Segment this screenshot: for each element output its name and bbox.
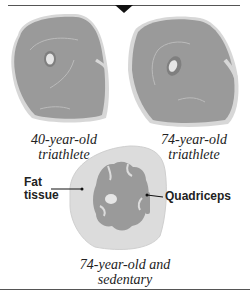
cross-section-74-triathlete [128, 17, 239, 127]
caption-74-triathlete: 74-year-old triathlete [148, 132, 240, 162]
caption-line: triathlete [148, 147, 240, 162]
cross-section-40-triathlete [11, 14, 109, 123]
caption-line: 74-year-old [148, 132, 240, 147]
caption-line: 40-year-old [18, 132, 110, 147]
caption-74-sedentary: 74-year-old and sedentary [60, 257, 190, 287]
label-line: tissue [24, 189, 59, 202]
caption-line: triathlete [18, 147, 110, 162]
bottom-divider [0, 289, 250, 290]
caption-line: sedentary [60, 272, 190, 287]
caption-40-triathlete: 40-year-old triathlete [18, 132, 110, 162]
caption-line: 74-year-old and [60, 257, 190, 272]
fat-tissue-label: Fat tissue [24, 176, 59, 202]
quadriceps-label: Quadriceps [165, 190, 231, 203]
